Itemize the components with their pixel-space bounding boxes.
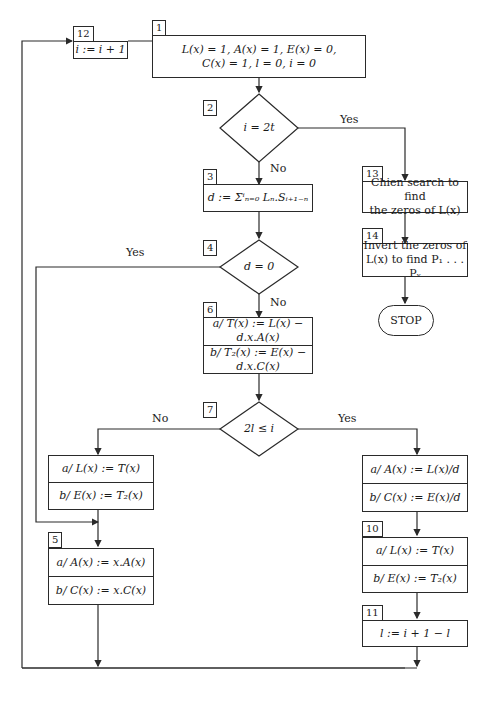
label-4-yes: Yes xyxy=(126,246,144,259)
step-number-7: 7 xyxy=(203,402,217,418)
label-4-no: No xyxy=(270,296,286,309)
condition-2l-le-i: 2l ≤ i xyxy=(225,422,293,435)
chien-line-2: the zeros of L(x) xyxy=(369,204,460,218)
discrepancy-box: d := Σⁱₙ₌₀ Lₙ.Sᵢ₊₁₋ₙ xyxy=(203,184,313,212)
stop-terminal: STOP xyxy=(378,305,434,336)
box5-row-b: b/ C(x) := x.C(x) xyxy=(49,576,153,604)
box10-row-a: a/ L(x) := T(x) xyxy=(363,538,467,565)
condition-i-equals-2t: i = 2t xyxy=(225,121,293,134)
init-line-1: L(x) = 1, A(x) = 1, E(x) = 0, xyxy=(182,43,337,57)
temp-poly-row-b: b/ T₂(x) := E(x) − d.x.C(x) xyxy=(204,345,312,374)
label-2-no: No xyxy=(270,162,286,175)
update-l-box-11: l := i + 1 − l xyxy=(362,620,468,647)
init-box: L(x) = 1, A(x) = 1, E(x) = 0, C(x) = 1, … xyxy=(152,35,366,78)
box10-row-b: b/ E(x) := T₂(x) xyxy=(363,565,467,593)
box11-text: l := i + 1 − l xyxy=(380,627,450,641)
label-7-no: No xyxy=(152,412,168,425)
invert-line-2: L(x) to find P₁ . . . Pᵥ xyxy=(363,253,467,281)
update-l-e-box-10: a/ L(x) := T(x) b/ E(x) := T₂(x) xyxy=(362,537,468,593)
box5-row-a: a/ A(x) := x.A(x) xyxy=(49,549,153,576)
init-line-2: C(x) = 1, l = 0, i = 0 xyxy=(202,57,316,71)
chien-search-box: Chien search to find the zeros of L(x) xyxy=(362,181,468,213)
box8-row-b: b/ E(x) := T₂(x) xyxy=(49,482,153,509)
invert-line-1: Invert the zeros of xyxy=(364,239,467,253)
box8-row-a: a/ L(x) := T(x) xyxy=(49,456,153,482)
condition-d-equals-0: d = 0 xyxy=(225,260,293,273)
discrepancy-text: d := Σⁱₙ₌₀ Lₙ.Sᵢ₊₁₋ₙ xyxy=(208,191,309,205)
invert-zeros-box: Invert the zeros of L(x) to find P₁ . . … xyxy=(362,243,468,277)
label-7-yes: Yes xyxy=(338,412,356,425)
chien-line-1: Chien search to find xyxy=(363,176,467,204)
step-number-5: 5 xyxy=(48,532,62,548)
step-number-12: 12 xyxy=(73,26,94,42)
box9-row-a: a/ A(x) := L(x)/d xyxy=(363,456,467,483)
step-number-2: 2 xyxy=(203,100,217,116)
step-number-4: 4 xyxy=(203,240,217,256)
step-number-10: 10 xyxy=(362,521,383,537)
step-number-11: 11 xyxy=(362,605,383,621)
shift-box-5: a/ A(x) := x.A(x) b/ C(x) := x.C(x) xyxy=(48,548,154,605)
update-l-e-box-8: a/ L(x) := T(x) b/ E(x) := T₂(x) xyxy=(48,455,154,510)
step-number-1: 1 xyxy=(152,20,166,36)
box9-row-b: b/ C(x) := E(x)/d xyxy=(363,483,467,511)
increment-box: i := i + 1 xyxy=(73,41,128,59)
step-number-3: 3 xyxy=(203,169,217,185)
temp-poly-row-a: a/ T(x) := L(x) − d.x.A(x) xyxy=(204,317,312,345)
increment-text: i := i + 1 xyxy=(75,43,125,57)
label-2-yes: Yes xyxy=(340,113,358,126)
normalize-box-9: a/ A(x) := L(x)/d b/ C(x) := E(x)/d xyxy=(362,455,468,512)
temp-poly-box: a/ T(x) := L(x) − d.x.A(x) b/ T₂(x) := E… xyxy=(203,317,313,374)
step-number-6: 6 xyxy=(203,302,217,318)
